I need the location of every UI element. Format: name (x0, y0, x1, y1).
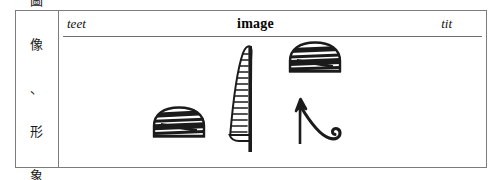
hieroglyph-area (59, 37, 486, 167)
reed-sign-icon (217, 40, 261, 153)
content-cell: teet image tit (59, 11, 486, 167)
label-char-5: 象 (25, 169, 50, 180)
label-cell: 圖 像 、 形 象 (16, 11, 59, 167)
label-char-3: 、 (25, 82, 50, 97)
header-row: teet image tit (59, 11, 486, 36)
label-char-2: 像 (25, 38, 50, 53)
vertical-label-text: 圖 像 、 形 象 (25, 0, 50, 180)
loaf-sign-lower-icon (151, 105, 207, 139)
header-label-left: teet (67, 16, 86, 32)
loaf-sign-upper-icon (287, 40, 343, 74)
header-label-right: tit (441, 16, 480, 32)
figure-frame: 圖 像 、 形 象 teet image tit (15, 10, 487, 168)
header-label-center: image (86, 16, 441, 32)
label-char-1: 圖 (25, 0, 50, 9)
label-char-4: 形 (25, 125, 50, 140)
tyet-sign-icon (291, 94, 351, 149)
